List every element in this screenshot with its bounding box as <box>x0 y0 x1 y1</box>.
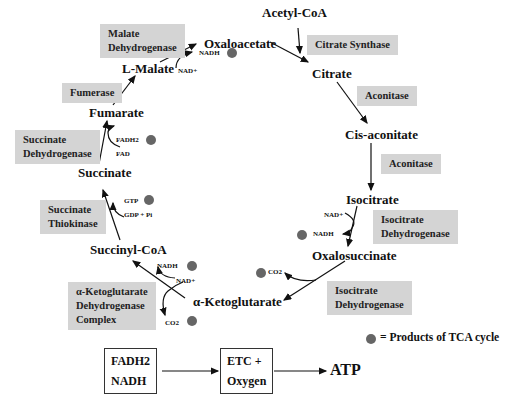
box-electron-carriers: FADH2 NADH <box>104 348 157 394</box>
enzyme-succinate-thiokinase: Succinate Thiokinase <box>40 200 106 234</box>
metabolite-isocitrate: Isocitrate <box>346 192 399 208</box>
enzyme-label: Dehydrogenase <box>23 147 92 161</box>
enzyme-label: Aconitase <box>389 157 433 171</box>
cofactor-fad: FAD <box>116 150 130 158</box>
enzyme-succinate-dehydrogenase: Succinate Dehydrogenase <box>15 130 100 164</box>
arrow-acetylcoa-citrate <box>298 28 300 53</box>
cofactor-fadh2: FADH2 <box>116 136 139 144</box>
legend-dot-icon <box>366 334 376 344</box>
enzyme-label: Malate <box>108 27 177 41</box>
product-dot-icon <box>187 316 197 326</box>
enzyme-label: Dehydrogenase <box>76 299 148 313</box>
metabolite-oxalosuccinate: Oxalosuccinate <box>312 248 397 264</box>
box-text: NADH <box>111 371 150 391</box>
enzyme-label: Succinate <box>48 203 98 217</box>
enzyme-citrate-synthase: Citrate Synthase <box>307 35 398 55</box>
enzyme-label: Fumerase <box>70 86 114 100</box>
enzyme-label: Isocitrate <box>381 213 450 227</box>
product-dot-icon <box>256 268 266 278</box>
enzyme-label: Thiokinase <box>48 217 98 231</box>
enzyme-label: Complex <box>76 313 148 327</box>
metabolite-alpha-ketoglutarate: α-Ketoglutarate <box>193 294 282 310</box>
enzyme-label: Isocitrate <box>335 284 404 298</box>
arrow-isocitrate-oxalosuccinate <box>348 206 357 246</box>
enzyme-akg-dehydrogenase-complex: α-Ketoglutarate Dehydrogenase Complex <box>68 282 156 330</box>
product-dot-icon <box>297 230 307 240</box>
cofactor-isocitrate-nad: NAD+ <box>324 211 343 219</box>
cofactor-isocitrate-nadh: NADH <box>313 230 334 238</box>
metabolite-succinate: Succinate <box>78 165 131 181</box>
enzyme-malate-dehydrogenase: Malate Dehydrogenase <box>100 24 185 58</box>
product-dot-icon <box>227 48 237 58</box>
product-dot-icon <box>146 135 156 145</box>
legend-label: = Products of TCA cycle <box>380 331 499 343</box>
metabolite-fumarate: Fumarate <box>89 105 144 121</box>
enzyme-label: Dehydrogenase <box>381 227 450 241</box>
metabolite-citrate: Citrate <box>312 66 352 82</box>
metabolite-acetyl-coa: Acetyl-CoA <box>262 5 327 21</box>
enzyme-label: Aconitase <box>365 89 409 103</box>
metabolite-l-malate: L-Malate <box>122 61 174 77</box>
enzyme-isocitrate-dehydrogenase-2: Isocitrate Dehydrogenase <box>327 281 412 315</box>
product-dot-icon <box>144 195 154 205</box>
cofactor-gtp: GTP <box>124 197 138 205</box>
cofactor-oxalosuccinate-co2: CO2 <box>268 268 282 276</box>
box-text: ETC + <box>227 351 266 371</box>
enzyme-label: Citrate Synthase <box>315 38 390 52</box>
enzyme-label: Succinate <box>23 133 92 147</box>
product-dot-icon <box>187 261 197 271</box>
enzyme-aconitase-2: Aconitase <box>381 154 441 174</box>
box-etc-oxygen: ETC + Oxygen <box>220 348 273 394</box>
box-text: FADH2 <box>111 351 150 371</box>
cofactor-akg-nad: NAD+ <box>176 277 195 285</box>
metabolite-cis-aconitate: Cis-aconitate <box>345 127 418 143</box>
atp-label: ATP <box>330 361 361 379</box>
enzyme-isocitrate-dehydrogenase-1: Isocitrate Dehydrogenase <box>373 210 458 244</box>
metabolite-succinyl-coa: Succinyl-CoA <box>90 242 167 258</box>
cofactor-gdp-pi: GDP + Pi <box>124 211 152 219</box>
enzyme-label: Dehydrogenase <box>108 41 177 55</box>
enzyme-fumerase: Fumerase <box>62 83 122 103</box>
cofactor-malate-nadh: NADH <box>199 49 220 57</box>
cofactor-malate-nad: NAD+ <box>178 67 197 75</box>
cofactor-akg-co2: CO2 <box>165 319 179 327</box>
enzyme-aconitase-1: Aconitase <box>357 86 417 106</box>
enzyme-label: Dehydrogenase <box>335 298 404 312</box>
enzyme-label: α-Ketoglutarate <box>76 285 148 299</box>
cofactor-akg-nadh: NADH <box>157 262 178 270</box>
box-text: Oxygen <box>227 371 266 391</box>
arrow-succinate-fumarate <box>99 121 107 164</box>
